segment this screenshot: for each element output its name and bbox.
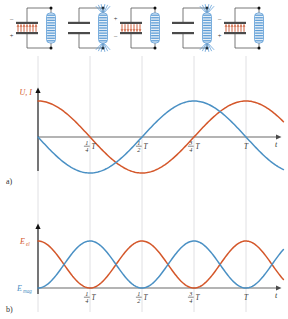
x-axis-label: t <box>275 140 278 149</box>
tick-denominator: 2 <box>137 297 140 304</box>
series-magnetic-energy <box>38 241 283 288</box>
junction-dot-bottom <box>154 47 157 50</box>
tick-unit: T <box>143 294 148 302</box>
junction-dot-top <box>50 7 53 10</box>
panel-label-a: a) <box>6 177 13 186</box>
x-axis-arrow <box>276 285 282 290</box>
capacitor-0: –+ <box>9 15 38 38</box>
junction-dot-bottom <box>258 47 261 50</box>
tick-denominator: 4 <box>189 297 192 304</box>
circuit-4: –+ <box>217 7 264 50</box>
tick-unit: T <box>195 294 200 302</box>
eel-subscript: el <box>26 241 30 247</box>
coil-4 <box>255 13 264 43</box>
capacitor-2: +– <box>113 15 142 38</box>
series-electric-energy <box>38 241 283 288</box>
capacitor-sign-bottom: – <box>113 32 118 39</box>
y-axis-label: U, I <box>20 88 33 97</box>
capacitor-plate-bottom <box>224 32 246 34</box>
panel-label-b: b) <box>6 305 13 314</box>
capacitor-plate-top <box>68 22 90 24</box>
capacitor-4: –+ <box>217 15 246 38</box>
capacitor-field-lines-0 <box>17 24 37 32</box>
y-axis-arrow <box>35 88 40 94</box>
lc-oscillation-figure: –++––+14T12T34TTU, Ita)14T12T34TTEelEmag… <box>0 0 288 319</box>
panel-a: 14T12T34TTU, Ita) <box>6 88 283 187</box>
tick-numerator: 1 <box>137 290 140 297</box>
capacitor-1 <box>68 22 90 34</box>
capacitor-plate-top <box>224 22 246 24</box>
tick-numerator: 3 <box>188 290 192 297</box>
y-axis-arrow <box>35 224 40 230</box>
y-axis-label-eel: Eel <box>19 237 30 247</box>
capacitor-field-lines-2 <box>121 24 141 32</box>
capacitor-plate-bottom <box>68 32 90 34</box>
circuit-3 <box>172 4 214 52</box>
junction-dot-top <box>154 7 157 10</box>
guide-lines <box>38 56 246 312</box>
circuit-1 <box>68 4 110 52</box>
xtick-3: T <box>244 143 249 151</box>
capacitor-sign-top: – <box>9 15 14 22</box>
tick-denominator: 2 <box>137 146 140 153</box>
x-axis-label: t <box>275 291 278 300</box>
tick-unit: T <box>195 143 200 151</box>
junction-dot-bottom <box>50 47 53 50</box>
figure-canvas: –++––+14T12T34TTU, Ita)14T12T34TTEelEmag… <box>0 0 288 319</box>
tick-numerator: 1 <box>85 139 88 146</box>
tick-denominator: 4 <box>189 146 192 153</box>
eel-symbol: E <box>19 237 25 246</box>
capacitor-sign-bottom: + <box>218 32 222 39</box>
coil-2 <box>151 13 160 43</box>
capacitor-plate-top <box>16 22 38 24</box>
tick-unit: T <box>91 294 96 302</box>
capacitor-plate-bottom <box>120 32 142 34</box>
capacitor-plate-bottom <box>172 32 194 34</box>
x-axis-arrow <box>276 134 282 139</box>
circuit-row: –++––+ <box>9 4 264 52</box>
circuit-2: +– <box>113 7 160 50</box>
y-axis-label-emag: Emag <box>16 284 32 294</box>
circuit-0: –+ <box>9 7 56 50</box>
tick-unit: T <box>244 294 249 302</box>
capacitor-plate-bottom <box>16 32 38 34</box>
capacitor-sign-top: + <box>114 15 118 22</box>
junction-dot-top <box>258 7 261 10</box>
emag-subscript: mag <box>23 288 32 294</box>
capacitor-sign-bottom: + <box>10 32 14 39</box>
tick-numerator: 1 <box>85 290 88 297</box>
capacitor-field-lines-4 <box>225 24 245 32</box>
coil-0 <box>47 13 56 43</box>
emag-symbol: E <box>16 284 22 293</box>
tick-numerator: 1 <box>137 139 140 146</box>
xtick-3: T <box>244 294 249 302</box>
panel-b: 14T12T34TTEelEmagtb) <box>6 224 283 315</box>
capacitor-3 <box>172 22 194 34</box>
tick-numerator: 3 <box>188 139 192 146</box>
capacitor-sign-top: – <box>217 15 222 22</box>
tick-denominator: 4 <box>85 146 88 153</box>
tick-denominator: 4 <box>85 297 88 304</box>
capacitor-plate-top <box>172 22 194 24</box>
tick-unit: T <box>244 143 249 151</box>
tick-unit: T <box>143 143 148 151</box>
capacitor-plate-top <box>120 22 142 24</box>
tick-unit: T <box>91 143 96 151</box>
